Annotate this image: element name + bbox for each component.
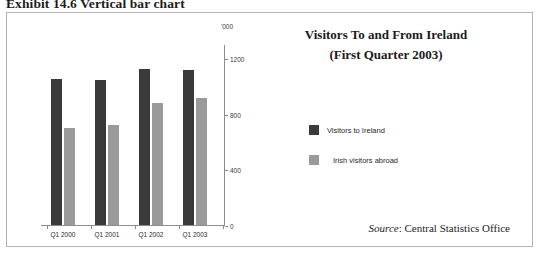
bar-group — [133, 23, 177, 225]
bar — [64, 128, 75, 225]
bar — [95, 80, 106, 225]
x-axis-tick-label: Q1 2003 — [183, 231, 208, 238]
source-label: Source — [369, 222, 399, 234]
legend-label: Irish visitors abroad — [333, 156, 398, 165]
x-axis-tick — [135, 226, 136, 229]
exhibit-caption: Exhibit 14.6 Vertical bar chart — [6, 0, 185, 12]
x-axis-tick-label: Q1 2002 — [139, 231, 164, 238]
bar — [196, 98, 207, 225]
bar — [183, 70, 194, 225]
source-note: Source: Central Statistics Office — [369, 222, 510, 234]
source-value: Central Statistics Office — [405, 222, 511, 234]
y-axis-tick-label: 800 — [230, 111, 241, 118]
y-axis-tick — [225, 226, 228, 227]
y-axis-tick — [225, 59, 228, 60]
legend-label: Visitors to Ireland — [327, 126, 385, 135]
y-axis-tick-label: 400 — [230, 167, 241, 174]
x-axis-tick-label: Q1 2000 — [51, 231, 76, 238]
chart-title: Visitors To and From Ireland (First Quar… — [255, 25, 517, 65]
bar — [152, 103, 163, 225]
legend-swatch — [309, 125, 319, 135]
x-axis-tick — [47, 226, 48, 229]
bar — [139, 69, 150, 225]
y-axis-tick-label: 0 — [230, 223, 234, 230]
bar-group — [177, 23, 221, 225]
x-axis-tick — [223, 226, 224, 229]
bar-group — [89, 23, 133, 225]
y-axis-tick — [225, 170, 228, 171]
y-axis-tick — [225, 115, 228, 116]
bar — [51, 79, 62, 225]
chart-title-line2: (First Quarter 2003) — [255, 45, 517, 65]
legend-item: Irish visitors abroad — [309, 155, 398, 165]
y-axis-tick-label: 1200 — [230, 55, 244, 62]
x-axis-tick-label: Q1 2001 — [95, 231, 120, 238]
x-axis-tick — [179, 226, 180, 229]
chart-legend: Visitors to IrelandIrish visitors abroad — [309, 125, 398, 185]
bar-group — [45, 23, 89, 225]
x-axis-tick — [91, 226, 92, 229]
chart-plot-area: '000 04008001200 Q1 2000Q1 2001Q1 2002Q1… — [37, 23, 233, 231]
bar — [108, 125, 119, 225]
chart-title-line1: Visitors To and From Ireland — [305, 27, 467, 42]
figure-frame: '000 04008001200 Q1 2000Q1 2001Q1 2002Q1… — [6, 12, 533, 247]
legend-item: Visitors to Ireland — [309, 125, 398, 135]
legend-swatch — [309, 155, 319, 165]
bars-layer — [37, 23, 225, 226]
